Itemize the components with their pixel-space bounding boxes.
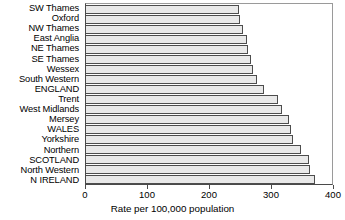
category-label: East Anglia [0,33,82,43]
bar-series [86,4,332,184]
bar [86,55,251,64]
bar-row [86,144,332,154]
x-axis-tick-label: 100 [139,189,155,201]
bar [86,165,310,174]
plot-area [85,3,333,185]
bar [86,45,248,54]
bar-row [86,54,332,64]
bar [86,145,301,154]
bar [86,65,253,74]
bar-row [86,14,332,24]
bar-row [86,24,332,34]
bar-row [86,104,332,114]
category-label: WALES [0,124,82,134]
bar-row [86,64,332,74]
category-label: West Midlands [0,104,82,114]
x-axis-tick-label: 0 [82,189,87,201]
bar [86,105,282,114]
category-label: ENGLAND [0,84,82,94]
category-label: Mersey [0,114,82,124]
bar-row [86,74,332,84]
bar [86,15,240,24]
category-label: Trent [0,94,82,104]
category-label: SCOTLAND [0,155,82,165]
bar [86,85,264,94]
category-label: SW Thames [0,3,82,13]
bar-row [86,134,332,144]
bar-chart: SW ThamesOxfordNW ThamesEast AngliaNE Th… [0,0,345,220]
bar [86,115,289,124]
category-label: Oxford [0,13,82,23]
bar-row [86,174,332,184]
x-axis-tick-labels: 0100200300400 [85,189,333,202]
category-label: NW Thames [0,23,82,33]
bar [86,5,239,14]
category-label: N IRELAND [0,175,82,185]
bar-row [86,154,332,164]
bar-row [86,44,332,54]
category-label: North Western [0,165,82,175]
bar-row [86,84,332,94]
category-label: Wessex [0,64,82,74]
bar [86,175,315,184]
x-axis-tick-label: 400 [325,189,341,201]
x-axis-tick-label: 300 [263,189,279,201]
bar [86,25,243,34]
bar-row [86,94,332,104]
category-label: Yorkshire [0,134,82,144]
bar-row [86,114,332,124]
bar [86,125,291,134]
x-axis-title: Rate per 100,000 population [0,203,345,214]
category-axis-labels: SW ThamesOxfordNW ThamesEast AngliaNE Th… [0,3,82,185]
bar-row [86,124,332,134]
category-label: Northern [0,145,82,155]
bar [86,155,309,164]
bar [86,95,278,104]
bar [86,75,257,84]
category-label: NE Thames [0,43,82,53]
category-label: SE Thames [0,54,82,64]
bar [86,135,293,144]
bar-row [86,164,332,174]
x-axis-tick-label: 200 [201,189,217,201]
bar-row [86,4,332,14]
category-label: South Western [0,74,82,84]
bar-row [86,34,332,44]
bar [86,35,247,44]
